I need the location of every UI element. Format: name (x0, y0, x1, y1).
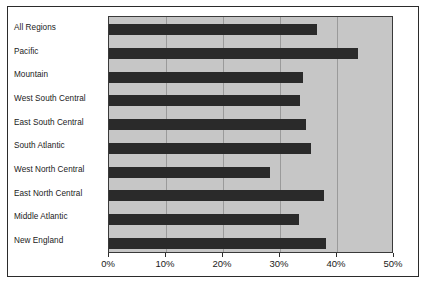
x-tick-label: 0% (88, 258, 128, 269)
bar (109, 72, 303, 83)
category-label: Pacific (14, 47, 108, 57)
bar (109, 167, 270, 178)
x-tick-mark (165, 253, 166, 257)
x-tick-label: 10% (145, 258, 185, 269)
x-tick-mark (222, 253, 223, 257)
bar (109, 24, 317, 35)
category-label: Mountain (14, 70, 108, 80)
category-label: East North Central (14, 189, 108, 199)
bar (109, 238, 326, 249)
x-axis: 0%10%20%30%40%50% (108, 253, 393, 275)
category-label: East South Central (14, 118, 108, 128)
category-label: West South Central (14, 94, 108, 104)
x-tick-mark (336, 253, 337, 257)
x-tick-label: 50% (373, 258, 413, 269)
x-tick-label: 30% (259, 258, 299, 269)
bar (109, 214, 299, 225)
category-axis-labels: All RegionsPacificMountainWest South Cen… (14, 16, 108, 253)
bar (109, 190, 324, 201)
category-label: Middle Atlantic (14, 212, 108, 222)
x-tick-mark (393, 253, 394, 257)
bar (109, 143, 311, 154)
category-label: South Atlantic (14, 141, 108, 151)
category-label: New England (14, 236, 108, 246)
category-label: All Regions (14, 23, 108, 33)
chart-figure: All RegionsPacificMountainWest South Cen… (0, 0, 426, 283)
x-tick-label: 20% (202, 258, 242, 269)
chart-body: All RegionsPacificMountainWest South Cen… (0, 0, 426, 283)
x-tick-mark (108, 253, 109, 257)
x-tick-mark (279, 253, 280, 257)
bar (109, 119, 306, 130)
plot-area (108, 16, 393, 253)
bar (109, 48, 358, 59)
bar (109, 95, 300, 106)
category-label: West North Central (14, 165, 108, 175)
x-tick-label: 40% (316, 258, 356, 269)
